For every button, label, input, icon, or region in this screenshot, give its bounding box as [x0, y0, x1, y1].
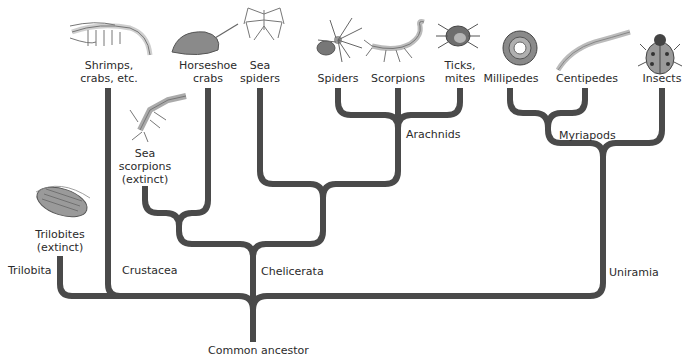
taxon-shrimps: Shrimps, crabs, etc. [74, 59, 144, 85]
taxon-trilobites: Trilobites (extinct) [30, 228, 90, 254]
ticks-branch [398, 88, 460, 128]
group-myriapods: Myriapods [559, 129, 616, 142]
taxon-spiders: Spiders [310, 72, 366, 85]
millipedes-branch [510, 88, 548, 128]
chelicerata-branch [179, 224, 253, 300]
trilobite-icon [33, 182, 90, 223]
taxon-sea-spiders: Sea spiders [235, 59, 285, 85]
crustacea-branch [108, 88, 120, 296]
sea-scorpion-icon [130, 96, 186, 142]
taxon-centipedes: Centipedes [552, 72, 622, 85]
group-uniramia: Uniramia [609, 266, 659, 279]
root-label: Common ancestor [208, 344, 309, 357]
centipede-icon [558, 32, 630, 70]
taxon-scorpions: Scorpions [366, 72, 430, 85]
sea-scorpions-branch [145, 186, 179, 226]
horseshoe-crab-icon [172, 24, 238, 55]
taxon-insects: Insects [636, 72, 688, 85]
centipedes-branch [548, 88, 585, 128]
root-branch [239, 296, 253, 342]
shrimp-icon [70, 23, 150, 55]
group-crustacea: Crustacea [122, 264, 178, 277]
phylogenetic-tree [0, 0, 691, 364]
taxon-sea-scorpions: Sea scorpions (extinct) [115, 147, 175, 186]
sea-spiders-branch [260, 88, 323, 198]
tick-icon [436, 24, 480, 48]
arachnids-branch [323, 88, 398, 198]
scorpion-icon [364, 22, 424, 63]
group-chelicerata: Chelicerata [261, 265, 324, 278]
taxon-millipedes: Millipedes [476, 72, 546, 85]
insects-branch [603, 88, 662, 157]
group-arachnids: Arachnids [406, 128, 461, 141]
taxon-horseshoe-crabs: Horseshoe crabs [173, 59, 243, 85]
group-trilobita: Trilobita [8, 264, 52, 277]
ladybug-icon [638, 34, 682, 74]
spider-icon [317, 18, 362, 62]
sea-spider-icon [244, 8, 284, 40]
spiders-branch [338, 88, 398, 128]
horseshoe-branch [179, 88, 208, 226]
millipede-icon [503, 31, 537, 65]
